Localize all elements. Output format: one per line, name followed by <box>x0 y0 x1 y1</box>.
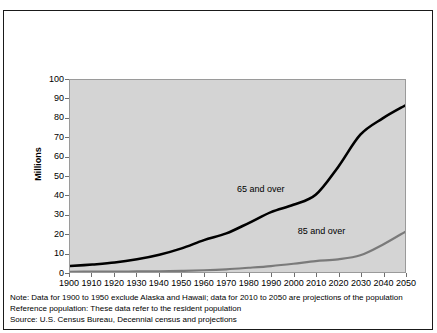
x-tick-mark <box>114 273 115 277</box>
x-tick-mark <box>69 273 70 277</box>
x-tick-mark <box>294 273 295 277</box>
y-tick-label: 60 <box>38 152 64 161</box>
y-tick-label: 90 <box>38 94 64 103</box>
plot-lines <box>70 80 405 272</box>
x-tick-mark <box>204 273 205 277</box>
y-tick-label: 80 <box>38 113 64 122</box>
x-tick-mark <box>91 273 92 277</box>
series-annotation-label: 85 and over <box>298 226 346 236</box>
y-tick-label: 30 <box>38 210 64 219</box>
plot-area: 65 and over85 and over <box>69 79 406 273</box>
footnote-note: Note: Data for 1900 to 1950 exclude Alas… <box>10 292 428 303</box>
x-tick-mark <box>316 273 317 277</box>
y-tick-label: 40 <box>38 191 64 200</box>
footnotes-block: Note: Data for 1900 to 1950 exclude Alas… <box>10 292 428 325</box>
x-tick-mark <box>384 273 385 277</box>
y-tick-label: 0 <box>38 269 64 278</box>
x-tick-mark <box>406 273 407 277</box>
series-annotation-label: 65 and over <box>237 184 285 194</box>
x-tick-mark <box>249 273 250 277</box>
footnote-reference-population: Reference population: These data refer t… <box>10 303 428 314</box>
y-tick-label: 70 <box>38 133 64 142</box>
chart-area: Millions 0102030405060708090100 19001910… <box>4 11 434 286</box>
x-tick-mark <box>361 273 362 277</box>
x-tick-label: 2050 <box>391 279 421 288</box>
y-tick-label: 100 <box>38 75 64 84</box>
x-tick-mark <box>226 273 227 277</box>
x-tick-mark <box>339 273 340 277</box>
x-tick-mark <box>159 273 160 277</box>
y-tick-label: 20 <box>38 230 64 239</box>
x-tick-mark <box>136 273 137 277</box>
figure-container: Millions 0102030405060708090100 19001910… <box>3 10 433 330</box>
series-line-85-and-over <box>70 232 405 272</box>
y-tick-label: 50 <box>38 172 64 181</box>
y-tick-label: 10 <box>38 249 64 258</box>
x-tick-mark <box>271 273 272 277</box>
x-tick-mark <box>181 273 182 277</box>
footnote-source: Source: U.S. Census Bureau, Decennial ce… <box>10 314 428 325</box>
